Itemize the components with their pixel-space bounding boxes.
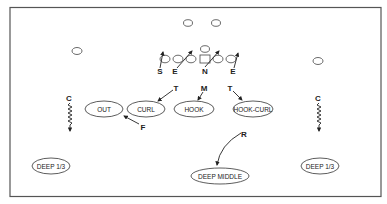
offense-player-back-right: [212, 20, 221, 27]
defender-e-right: E: [230, 67, 236, 76]
defender-f: F: [141, 123, 146, 132]
defender-t-right: T: [228, 84, 233, 93]
defender-c-right: C: [315, 94, 321, 103]
offense-player-rt: [226, 55, 236, 63]
offense-player-lt: [173, 55, 183, 63]
zone-curl-label: CURL: [137, 106, 155, 113]
offense-player-wr-right: [313, 58, 323, 65]
defender-n: N: [202, 67, 208, 76]
zone-deep-third-left-label: DEEP 1/3: [37, 163, 66, 170]
cover-3-diagram: S E N E T M T C C F R OUT CURL HOOK HOOK…: [0, 0, 387, 204]
zone-hook-label: HOOK: [184, 106, 204, 113]
zone-out-label: OUT: [97, 106, 111, 113]
defender-r: R: [241, 130, 247, 139]
zone-deep-third-right-label: DEEP 1/3: [306, 163, 335, 170]
offense-player-wr-left: [72, 48, 82, 55]
defender-m: M: [201, 84, 208, 93]
defender-c-left: C: [66, 94, 72, 103]
defender-s: S: [157, 67, 163, 76]
defender-t-left: T: [174, 84, 179, 93]
offense-player-qb: [201, 46, 210, 53]
offense-player-back-left: [184, 20, 193, 27]
offense-player-center: [200, 55, 210, 63]
zone-deep-middle-label: DEEP MIDDLE: [198, 173, 243, 180]
defender-e-left: E: [172, 67, 178, 76]
zone-hook-curl-label: HOOK-CURL: [233, 106, 272, 113]
